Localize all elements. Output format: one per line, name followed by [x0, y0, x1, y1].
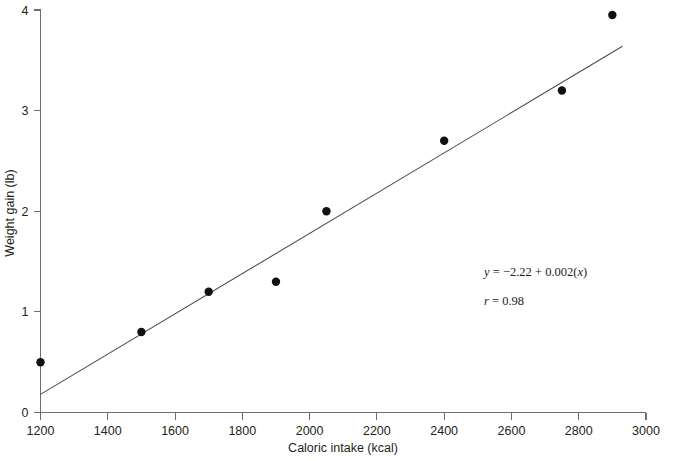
equation-slope: 0.002( [545, 265, 577, 279]
x-tick-label: 2000 [296, 424, 324, 438]
svg-text:y = −2.22 + 0.002(x): y = −2.22 + 0.002(x) [482, 265, 587, 279]
data-point [36, 358, 44, 366]
x-tick-label: 1400 [94, 424, 122, 438]
plot-canvas: 01234 1200140016001800200022002400260028… [0, 0, 674, 461]
y-axis: 01234 [22, 4, 41, 421]
y-tick-label: 0 [22, 406, 29, 420]
x-axis-title: Caloric intake (kcal) [288, 441, 398, 455]
x-tick-label: 1200 [27, 424, 55, 438]
x-tick-label: 2600 [498, 424, 526, 438]
regression-line [41, 46, 623, 394]
equation-intercept: −2.22 [503, 265, 532, 279]
data-point [272, 277, 280, 285]
equation-equals: = [490, 265, 503, 279]
data-point [322, 207, 330, 215]
data-point [608, 11, 616, 19]
y-axis-title: Weight gain (lb) [3, 169, 17, 256]
x-tick-label: 3000 [632, 424, 660, 438]
y-tick-label: 2 [22, 205, 29, 219]
svg-text:r = 0.98: r = 0.98 [484, 294, 524, 308]
data-point [440, 137, 448, 145]
annotation-correlation: r = 0.98 [484, 294, 524, 308]
data-point [137, 328, 145, 336]
x-tick-label: 2400 [430, 424, 458, 438]
y-tick-label: 4 [22, 4, 29, 18]
x-tick-label: 2200 [363, 424, 391, 438]
scatter-plot-figure: 01234 1200140016001800200022002400260028… [0, 0, 674, 461]
data-point [204, 288, 212, 296]
x-tick-label: 1800 [228, 424, 256, 438]
x-tick-label: 2800 [565, 424, 593, 438]
y-tick-label: 3 [22, 104, 29, 118]
x-axis-ticks: 1200140016001800200022002400260028003000 [27, 413, 660, 438]
equation-close-paren: ) [583, 265, 587, 279]
x-axis: 1200140016001800200022002400260028003000 [27, 413, 660, 438]
annotation-equation: y = −2.22 + 0.002(x) [482, 265, 587, 279]
y-axis-ticks: 01234 [22, 4, 41, 421]
data-point [558, 86, 566, 94]
data-points [36, 11, 616, 367]
regression-line-segment [41, 46, 623, 394]
equation-plus: + [532, 265, 545, 279]
y-tick-label: 1 [22, 305, 29, 319]
correlation-value: = 0.98 [489, 294, 524, 308]
x-tick-label: 1600 [161, 424, 189, 438]
